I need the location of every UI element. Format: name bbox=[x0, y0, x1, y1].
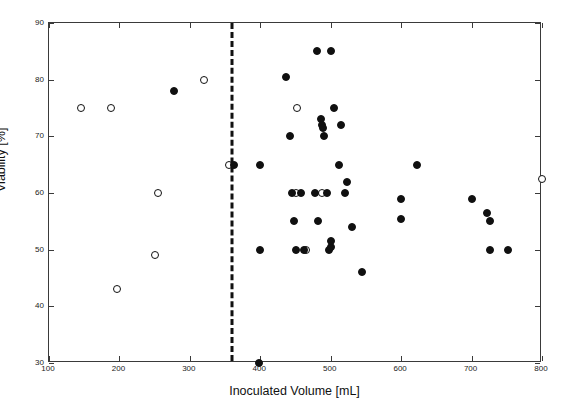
data-point bbox=[348, 223, 356, 231]
data-point bbox=[538, 175, 546, 183]
y-tick-60 bbox=[49, 193, 54, 194]
data-point bbox=[292, 246, 300, 254]
y-axis-label: Viability [%] bbox=[0, 128, 8, 192]
y-tick-label-60: 60 bbox=[35, 188, 44, 197]
y-tick-right-80 bbox=[535, 80, 540, 81]
x-tick-800 bbox=[542, 356, 543, 361]
y-tick-50 bbox=[49, 250, 54, 251]
data-point bbox=[297, 189, 305, 197]
data-point bbox=[486, 217, 494, 225]
data-point bbox=[282, 73, 290, 81]
data-point bbox=[341, 189, 349, 197]
data-point bbox=[504, 246, 512, 254]
x-tick-top-400 bbox=[260, 23, 261, 28]
x-tick-top-800 bbox=[542, 23, 543, 28]
y-tick-label-30: 30 bbox=[35, 358, 44, 367]
data-point bbox=[107, 104, 115, 112]
y-tick-label-40: 40 bbox=[35, 301, 44, 310]
data-point bbox=[290, 217, 298, 225]
data-point bbox=[413, 161, 421, 169]
y-tick-90 bbox=[49, 23, 54, 24]
data-point bbox=[323, 189, 331, 197]
data-point bbox=[113, 285, 121, 293]
y-tick-right-60 bbox=[535, 193, 540, 194]
data-point bbox=[319, 124, 327, 132]
x-tick-label-700: 700 bbox=[464, 364, 477, 373]
x-tick-label-400: 400 bbox=[253, 364, 266, 373]
data-point bbox=[330, 104, 338, 112]
data-point bbox=[314, 217, 322, 225]
x-tick-label-600: 600 bbox=[393, 364, 406, 373]
x-tick-200 bbox=[119, 356, 120, 361]
data-point bbox=[343, 178, 351, 186]
threshold-line bbox=[231, 23, 234, 361]
y-tick-label-80: 80 bbox=[35, 74, 44, 83]
data-point bbox=[358, 268, 366, 276]
data-point bbox=[320, 132, 328, 140]
data-point bbox=[154, 189, 162, 197]
scatter-chart-figure: Viability [%] Inoculated Volume [mL] 100… bbox=[0, 0, 573, 417]
data-point bbox=[337, 121, 345, 129]
data-point bbox=[300, 246, 308, 254]
x-tick-label-800: 800 bbox=[534, 364, 547, 373]
data-point bbox=[256, 161, 264, 169]
data-point bbox=[327, 47, 335, 55]
data-point bbox=[311, 189, 319, 197]
data-point bbox=[335, 161, 343, 169]
x-tick-100 bbox=[49, 356, 50, 361]
data-point bbox=[483, 209, 491, 217]
plot-area bbox=[48, 22, 541, 362]
data-point bbox=[486, 246, 494, 254]
x-tick-top-300 bbox=[190, 23, 191, 28]
y-tick-label-70: 70 bbox=[35, 131, 44, 140]
y-tick-80 bbox=[49, 80, 54, 81]
data-point bbox=[397, 215, 405, 223]
x-axis-label: Inoculated Volume [mL] bbox=[48, 384, 541, 398]
y-tick-70 bbox=[49, 136, 54, 137]
y-tick-label-90: 90 bbox=[35, 18, 44, 27]
y-tick-40 bbox=[49, 306, 54, 307]
x-tick-500 bbox=[331, 356, 332, 361]
data-point bbox=[327, 237, 335, 245]
y-tick-label-50: 50 bbox=[35, 244, 44, 253]
x-tick-600 bbox=[401, 356, 402, 361]
data-point bbox=[77, 104, 85, 112]
data-point bbox=[468, 195, 476, 203]
x-tick-top-600 bbox=[401, 23, 402, 28]
x-tick-top-700 bbox=[472, 23, 473, 28]
data-point bbox=[293, 104, 301, 112]
data-point bbox=[151, 251, 159, 259]
x-tick-top-200 bbox=[119, 23, 120, 28]
x-tick-label-300: 300 bbox=[182, 364, 195, 373]
x-tick-top-500 bbox=[331, 23, 332, 28]
data-point bbox=[170, 87, 178, 95]
y-tick-right-90 bbox=[535, 23, 540, 24]
x-tick-label-500: 500 bbox=[323, 364, 336, 373]
y-tick-right-40 bbox=[535, 306, 540, 307]
x-tick-300 bbox=[190, 356, 191, 361]
x-tick-label-200: 200 bbox=[112, 364, 125, 373]
x-tick-700 bbox=[472, 356, 473, 361]
data-point bbox=[313, 47, 321, 55]
y-tick-right-50 bbox=[535, 250, 540, 251]
data-point bbox=[200, 76, 208, 84]
data-point bbox=[256, 246, 264, 254]
y-tick-right-70 bbox=[535, 136, 540, 137]
data-point bbox=[286, 132, 294, 140]
data-point bbox=[397, 195, 405, 203]
data-point bbox=[288, 189, 296, 197]
